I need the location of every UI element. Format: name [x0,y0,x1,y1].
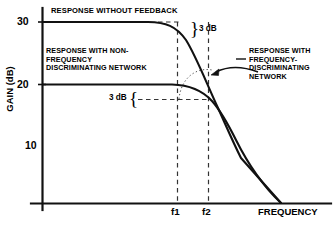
x-axis-title: FREQUENCY [258,206,318,217]
construction-lines [138,22,212,202]
curve-non-frequency-network [43,85,281,204]
annotation-frequency-network: RESPONSE WITH FREQUENCY- DISCRIMINATING … [249,47,311,81]
x-tick-label-f1: f1 [171,206,180,217]
leader-arrowhead [211,69,219,76]
annotation-without-feedback: RESPONSE WITHOUT FEEDBACK [51,7,178,16]
three-db-label-upper: 3 dB [199,24,217,33]
y-axis-title-wrap: GAIN (dB) [2,46,16,132]
three-db-label-lower: 3 dB [109,93,127,102]
y-tick-label-10: 10 [25,139,37,151]
axis-group [31,8,331,210]
x-tick-label-f2: f2 [202,206,211,217]
brace-lower: { [129,89,138,108]
figure-canvas [0,0,335,227]
y-tick-label-30: 30 [17,15,29,27]
annotation-non-frequency-network: RESPONSE WITH NON- FREQUENCY DISCRIMINAT… [46,47,147,73]
y-tick-label-20: 20 [17,78,29,90]
brace-upper: } [190,19,199,38]
y-axis-title: GAIN (dB) [4,66,15,111]
gain-frequency-response-figure: GAIN (dB) 30 20 10 f1 f2 FREQUENCY RESPO… [0,0,335,227]
